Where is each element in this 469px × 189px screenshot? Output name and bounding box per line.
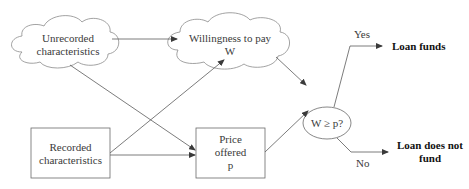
edge-price-to-decision bbox=[265, 111, 308, 152]
edge-decision-no bbox=[337, 138, 388, 152]
edge-decision-yes bbox=[334, 46, 382, 107]
no-label: No bbox=[356, 157, 369, 170]
price-line2: offered bbox=[196, 146, 265, 159]
recorded-line1: Recorded bbox=[31, 141, 110, 154]
unrecorded-line1: Unrecorded bbox=[30, 32, 106, 45]
willingness-line1: Willingness to pay bbox=[180, 32, 280, 45]
loan-does-not-fund-outcome: Loan does not fund bbox=[395, 139, 465, 165]
flow-diagram: Unrecorded characteristics Willingness t… bbox=[0, 0, 469, 189]
unrecorded-characteristics-node: Unrecorded characteristics bbox=[30, 32, 106, 58]
price-line3: p bbox=[196, 159, 265, 172]
recorded-line2: characteristics bbox=[31, 154, 110, 167]
decision-node: W ≥ p? bbox=[303, 117, 351, 130]
edge-willingness-to-decision bbox=[276, 57, 306, 85]
recorded-characteristics-node: Recorded characteristics bbox=[31, 141, 110, 167]
loan-not-fund-line2: fund bbox=[395, 152, 465, 165]
loan-not-fund-line1: Loan does not bbox=[395, 139, 465, 152]
price-offered-node: Price offered p bbox=[196, 133, 265, 172]
willingness-line2: W bbox=[180, 45, 280, 58]
willingness-to-pay-node: Willingness to pay W bbox=[180, 32, 280, 58]
price-line1: Price bbox=[196, 133, 265, 146]
yes-label: Yes bbox=[354, 28, 370, 41]
decision-label: W ≥ p? bbox=[311, 117, 343, 129]
loan-funds-outcome: Loan funds bbox=[392, 40, 446, 53]
unrecorded-line2: characteristics bbox=[30, 45, 106, 58]
